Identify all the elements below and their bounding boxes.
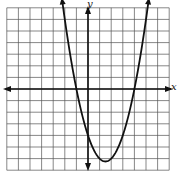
x-axis-label: x [171,81,177,92]
graph [0,0,178,176]
y-axis-down-arrow-icon [85,163,91,171]
curve-left-arrow-icon [60,0,66,5]
parabola-curve [62,3,148,162]
curve-arrows [60,0,151,5]
y-axis-label: y [87,0,93,9]
curve-right-arrow-icon [145,0,151,5]
